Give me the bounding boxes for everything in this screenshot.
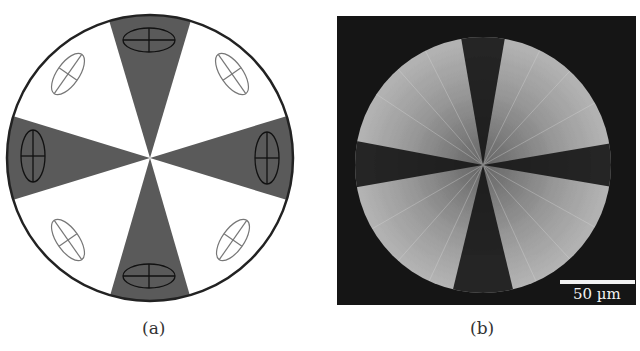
- panel-a-schematic: [0, 0, 310, 310]
- scale-bar: [560, 280, 635, 284]
- maltese-cross-schematic: [0, 0, 310, 310]
- caption-a: (a): [142, 318, 165, 338]
- panel-b-micrograph: [330, 0, 640, 310]
- scale-bar-label: 50 µm: [573, 285, 621, 303]
- caption-b: (b): [470, 318, 494, 338]
- spherulite-micrograph: [330, 0, 640, 310]
